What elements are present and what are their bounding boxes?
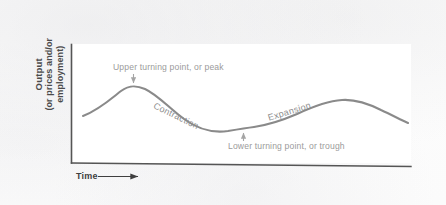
y-axis-label-sub: (or prices and/or employment)	[44, 19, 65, 129]
trough-annotation-label: Lower turning point, or trough	[228, 141, 345, 151]
peak-annotation-label: Upper turning point, or peak	[113, 62, 224, 72]
business-cycle-figure: Output (or prices and/or employment) Tim…	[0, 0, 446, 205]
x-axis-label: Time	[76, 171, 98, 181]
y-axis-label-main: Output	[33, 19, 44, 129]
x-axis-line	[72, 163, 412, 167]
chart-canvas	[0, 0, 446, 205]
y-axis-label: Output (or prices and/or employment)	[33, 19, 65, 129]
business-cycle-curve	[83, 86, 408, 131]
